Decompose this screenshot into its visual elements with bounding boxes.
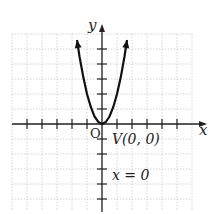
origin-label: O xyxy=(90,126,101,141)
parabola-chart: y x O V(0, 0) x = 0 xyxy=(0,0,218,214)
y-axis-label: y xyxy=(87,16,97,34)
axis-of-symmetry-label: x = 0 xyxy=(112,167,150,183)
x-axis-label: x xyxy=(199,121,208,139)
vertex-label: V(0, 0) xyxy=(112,131,160,147)
